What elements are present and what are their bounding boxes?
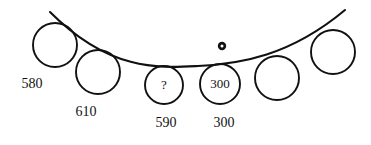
bead-inner-labels: ? 300	[161, 76, 230, 92]
outside-labels: 580 610 590 300	[22, 76, 235, 130]
bead-circle-6[interactable]	[311, 30, 355, 74]
necklace-diagram: ? 300 580 610 590 300	[0, 0, 371, 145]
necklace-string-curve	[50, 10, 345, 67]
figure-canvas: ? 300 580 610 590 300	[0, 0, 371, 145]
outside-label-610: 610	[76, 104, 97, 119]
bead-circle-2[interactable]	[76, 50, 120, 94]
bead-circle-5[interactable]	[255, 56, 299, 100]
outside-label-580: 580	[22, 76, 43, 91]
outside-label-590: 590	[156, 115, 177, 130]
bead-inner-label-3: ?	[161, 77, 167, 92]
bead-inner-label-4: 300	[210, 76, 230, 91]
bead-marker-dot-group	[218, 42, 226, 50]
bead-marker-dot-inner	[221, 45, 224, 48]
bead-circle-1[interactable]	[33, 23, 77, 67]
bead-group	[33, 23, 355, 104]
outside-label-300: 300	[214, 115, 235, 130]
